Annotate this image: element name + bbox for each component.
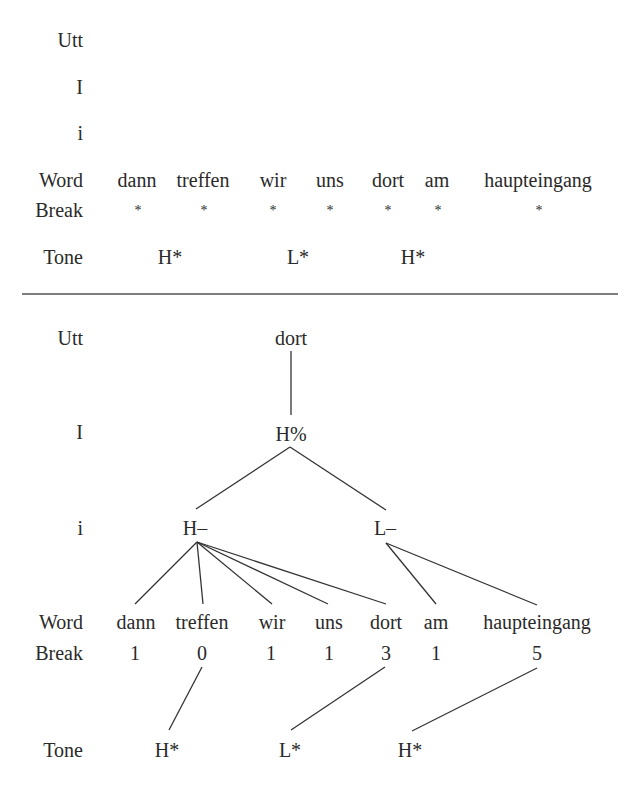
break-index: 1 — [431, 643, 441, 663]
intermediate-phrase-node: L– — [374, 518, 396, 538]
edge-Hminus-dort — [197, 542, 386, 604]
label-word: Word — [39, 170, 83, 190]
break-mark: * — [135, 204, 142, 218]
word: treffen — [176, 612, 229, 632]
label-word: Word — [39, 612, 83, 632]
break-index: 1 — [130, 643, 140, 663]
word: uns — [316, 170, 344, 190]
label-intermediate-phrase: i — [77, 518, 83, 538]
break-mark: * — [270, 204, 277, 218]
word: am — [424, 612, 448, 632]
word: haupteingang — [483, 612, 591, 632]
tone: H* — [401, 247, 425, 267]
word: dort — [372, 170, 404, 190]
break-index: 0 — [197, 643, 207, 663]
label-utt: Utt — [57, 328, 83, 348]
label-intonation-phrase: I — [76, 77, 83, 97]
tone: L* — [287, 247, 309, 267]
break-index: 5 — [532, 643, 542, 663]
break-mark: * — [435, 204, 442, 218]
intermediate-phrase-node: H– — [183, 518, 207, 538]
edge-Hminus-uns — [197, 542, 328, 604]
break-mark: * — [536, 204, 543, 218]
utt-node: dort — [275, 328, 307, 348]
tone: H* — [158, 247, 182, 267]
intonation-phrase-node: H% — [275, 424, 306, 444]
word: dann — [118, 170, 157, 190]
break-mark: * — [201, 204, 208, 218]
word: dort — [370, 612, 402, 632]
edge-treffen-Hstar — [169, 667, 202, 730]
edge-Hminus-dann — [135, 542, 197, 604]
break-mark: * — [385, 204, 392, 218]
edge-haupteingang-Hstar — [412, 668, 537, 731]
edge-dort-Lstar — [291, 667, 385, 730]
label-break: Break — [35, 200, 83, 220]
word: wir — [259, 612, 286, 632]
edge-Lminus-am — [386, 543, 436, 604]
word: wir — [260, 170, 287, 190]
edge-I-Lminus — [290, 447, 386, 510]
word: am — [425, 170, 449, 190]
tree-lines — [0, 0, 634, 785]
tone: H* — [155, 740, 179, 760]
word: treffen — [177, 170, 230, 190]
word: dann — [117, 612, 156, 632]
label-utt: Utt — [57, 30, 83, 50]
tone: H* — [398, 740, 422, 760]
edge-Hminus-treffen — [197, 542, 203, 604]
label-break: Break — [35, 643, 83, 663]
label-tone: Tone — [43, 247, 83, 267]
edge-Hminus-wir — [197, 542, 272, 604]
break-index: 1 — [266, 643, 276, 663]
label-intonation-phrase: I — [76, 422, 83, 442]
break-mark: * — [327, 204, 334, 218]
edge-Lminus-haupteingang — [386, 543, 537, 605]
word: haupteingang — [484, 170, 592, 190]
label-tone: Tone — [43, 740, 83, 760]
break-index: 1 — [324, 643, 334, 663]
tone: L* — [279, 740, 301, 760]
break-index: 3 — [381, 643, 391, 663]
edge-I-Hminus — [196, 447, 290, 509]
word: uns — [315, 612, 343, 632]
label-intermediate-phrase: i — [77, 123, 83, 143]
